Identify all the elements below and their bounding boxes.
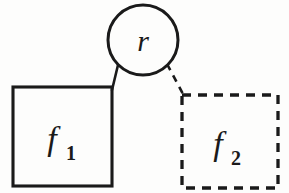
- diagram-canvas: r f 1 f 2: [0, 0, 289, 193]
- relation-label: r: [137, 24, 149, 57]
- node-function-two[interactable]: [182, 95, 278, 188]
- relation-diagram: r f 1 f 2: [0, 0, 289, 193]
- function-one-label: f: [47, 120, 61, 157]
- function-one-subscript: 1: [66, 142, 76, 164]
- function-two-label: f: [213, 125, 227, 162]
- node-function-one[interactable]: [13, 87, 112, 186]
- function-two-subscript: 2: [231, 147, 241, 169]
- edge-relation-to-f2: [167, 64, 183, 94]
